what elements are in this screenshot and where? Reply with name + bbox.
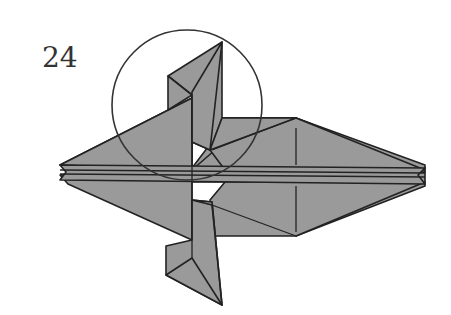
origami-diagram [0, 0, 451, 315]
